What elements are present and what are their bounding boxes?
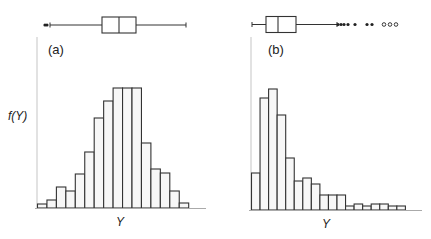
histogram-figure: (a) f(Y) Y (b) Y [0, 0, 431, 239]
outlier-point [336, 23, 339, 26]
histogram-bar [346, 206, 355, 210]
outlier-point [353, 23, 356, 26]
histogram-bar [252, 173, 261, 210]
outlier-point [346, 23, 349, 26]
histogram-bar [104, 101, 113, 208]
histogram-bar [123, 88, 132, 208]
extreme-outlier-point [394, 23, 398, 27]
outlier-point [342, 23, 345, 26]
panel-a-bars [38, 88, 189, 208]
histogram-bar [286, 158, 295, 210]
panel-a-label: (a) [48, 42, 64, 57]
outlier-point [339, 23, 342, 26]
histogram-bar [160, 173, 169, 208]
iqr-box [266, 17, 296, 33]
outlier-point [45, 23, 48, 26]
histogram-bar [85, 152, 94, 208]
histogram-bar [141, 143, 150, 208]
panel-a-x-axis-label: Y [116, 215, 125, 229]
histogram-bar [38, 204, 47, 208]
histogram-bar [371, 204, 380, 210]
histogram-bar [277, 115, 286, 210]
histogram-bar [132, 88, 141, 208]
histogram-bar [56, 187, 65, 208]
histogram-bar [151, 169, 160, 208]
histogram-bar [94, 118, 103, 208]
histogram-bar [380, 204, 389, 210]
panel-b-histogram: (b) Y [249, 17, 422, 232]
panel-b-x-axis-label: Y [322, 217, 331, 231]
histogram-bar [311, 184, 320, 210]
histogram-bar [294, 181, 303, 210]
outlier-point [365, 23, 368, 26]
histogram-bar [269, 89, 278, 210]
histogram-bar [66, 191, 75, 208]
histogram-bar [328, 195, 337, 210]
histogram-bar [320, 195, 329, 210]
panel-b-label: (b) [268, 42, 284, 57]
panel-a-y-axis-label: f(Y) [8, 109, 27, 123]
panel-b-boxplot [252, 17, 398, 33]
histogram-bar [337, 195, 346, 210]
histogram-bar [47, 200, 56, 208]
histogram-bar [170, 191, 179, 208]
histogram-bar [113, 88, 122, 208]
histogram-bar [354, 204, 363, 210]
histogram-bar [363, 206, 372, 210]
panel-a-boxplot [43, 17, 186, 33]
histogram-bar [397, 206, 406, 210]
extreme-outlier-point [382, 23, 386, 27]
histogram-bar [303, 178, 312, 210]
panel-b-bars [252, 89, 406, 210]
extreme-outlier-point [388, 23, 392, 27]
histogram-bar [75, 174, 84, 208]
histogram-bar [260, 98, 269, 210]
histogram-bar [179, 203, 188, 208]
panel-a-histogram: (a) f(Y) Y [8, 17, 206, 229]
histogram-bar [388, 206, 397, 210]
outlier-point [370, 23, 373, 26]
